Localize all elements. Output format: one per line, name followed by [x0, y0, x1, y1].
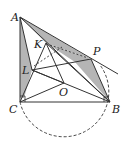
label-O: O — [59, 86, 68, 99]
label-A: A — [10, 11, 19, 24]
label-L: L — [21, 64, 29, 77]
shaded-triangle-left — [20, 17, 32, 98]
label-P: P — [92, 45, 101, 58]
geometry-figure: A C B K P L O — [0, 0, 130, 155]
label-K: K — [33, 38, 43, 51]
label-B: B — [111, 103, 120, 116]
label-C: C — [9, 103, 18, 116]
diagram-canvas: A C B K P L O — [0, 0, 130, 155]
